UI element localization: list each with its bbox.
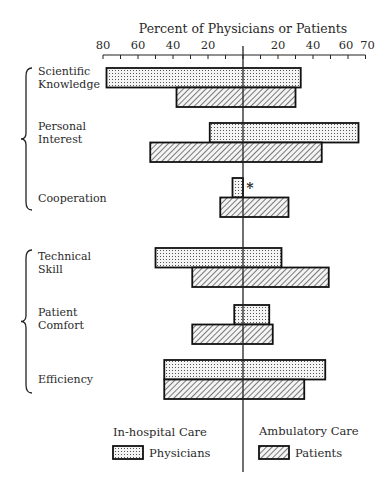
category-label: Efficiency xyxy=(38,373,94,386)
tick-label: 20 xyxy=(201,38,216,52)
tick-label: 40 xyxy=(166,38,181,52)
bar-patients-patient-comfort xyxy=(192,325,273,345)
legend: In-hospital CareAmbulatory CarePhysician… xyxy=(113,424,359,460)
bar-physicians-personal-interest xyxy=(210,123,359,143)
category-label: Personal xyxy=(38,120,87,133)
bar-physicians-scientific-knowledge xyxy=(107,68,301,88)
bar-physicians-patient-comfort xyxy=(234,305,269,325)
asterisk-annotation: * xyxy=(246,180,254,196)
tick-label: 80 xyxy=(96,38,111,52)
category-label: Comfort xyxy=(38,319,84,332)
brace-icon xyxy=(21,68,32,210)
diverging-bar-chart: Percent of Physicians or Patients 806040… xyxy=(0,0,390,494)
legend-swatch-patients xyxy=(259,446,289,459)
legend-label-patients: Patients xyxy=(295,446,342,460)
chart-title: Percent of Physicians or Patients xyxy=(139,21,347,36)
bar-patients-cooperation xyxy=(220,198,288,218)
x-axis: 8060402020406070 xyxy=(96,38,375,59)
tick-label: 60 xyxy=(131,38,146,52)
tick-label: 60 xyxy=(339,38,354,52)
category-label: Skill xyxy=(38,263,63,276)
category-label: Scientific xyxy=(38,65,90,78)
bar-patients-technical-skill xyxy=(192,268,329,288)
category-label: Knowledge xyxy=(38,78,100,91)
legend-swatch-physicians xyxy=(113,446,143,459)
brace-icon xyxy=(21,250,32,393)
legend-heading-in-hospital: In-hospital Care xyxy=(113,425,207,439)
bar-physicians-technical-skill xyxy=(156,248,282,268)
legend-heading-ambulatory: Ambulatory Care xyxy=(258,424,359,438)
bars: * xyxy=(107,68,359,399)
category-label: Patient xyxy=(38,306,78,319)
category-labels: ScientificKnowledgePersonalInterestCoope… xyxy=(38,65,107,386)
bar-physicians-efficiency xyxy=(164,360,325,380)
category-label: Cooperation xyxy=(38,192,107,205)
category-label: Technical xyxy=(38,250,92,263)
legend-label-physicians: Physicians xyxy=(149,446,211,460)
bar-physicians-cooperation xyxy=(233,178,244,198)
category-group-braces xyxy=(21,68,32,393)
bar-patients-personal-interest xyxy=(150,143,322,163)
category-label: Interest xyxy=(38,133,83,146)
tick-label: 20 xyxy=(271,38,286,52)
tick-label: 40 xyxy=(306,38,321,52)
bar-patients-efficiency xyxy=(164,380,304,400)
bar-patients-scientific-knowledge xyxy=(177,88,296,108)
tick-label: 70 xyxy=(360,38,375,52)
